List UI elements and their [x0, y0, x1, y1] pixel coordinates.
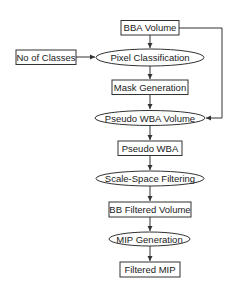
node-label: Pseudo WBA Volume [105, 113, 195, 124]
edge-bba-to-pseudo-volume [179, 28, 222, 118]
node-label: Pixel Classification [110, 52, 189, 63]
node-mask-generation: Mask Generation [112, 80, 188, 95]
node-pseudo-wba: Pseudo WBA [118, 141, 182, 156]
flowchart: BBA Volume No of Classes Pixel Classific… [0, 0, 236, 291]
node-label: No of Classes [16, 52, 75, 63]
node-label: Mask Generation [114, 82, 186, 93]
node-label: Filtered MIP [124, 264, 175, 275]
node-pixel-classification: Pixel Classification [96, 49, 204, 66]
node-pseudo-wba-volume: Pseudo WBA Volume [95, 111, 205, 126]
node-mip-generation: MIP Generation [109, 232, 190, 246]
node-label: Scale-Space Filtering [105, 173, 195, 184]
node-filtered-mip: Filtered MIP [120, 262, 180, 277]
node-label: BBA Volume [124, 22, 177, 33]
node-label: BB Filtered Volume [109, 204, 190, 215]
node-label: Pseudo WBA [122, 143, 179, 154]
node-label: MIP Generation [116, 234, 182, 245]
node-bba-volume: BBA Volume [121, 21, 179, 36]
node-no-of-classes: No of Classes [16, 50, 76, 65]
node-scale-space-filtering: Scale-Space Filtering [96, 171, 204, 186]
node-bb-filtered-volume: BB Filtered Volume [109, 202, 191, 217]
